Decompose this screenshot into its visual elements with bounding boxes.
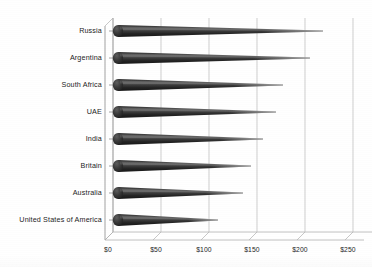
category-label-britain: Britain <box>81 161 102 170</box>
plot-frame <box>105 18 372 240</box>
bar-russia[interactable] <box>113 25 323 37</box>
xtick-label-50: $50 <box>150 246 162 253</box>
xtick-label-150: $150 <box>244 246 260 253</box>
category-label-argentina: Argentina <box>70 53 102 62</box>
floor-tick-200 <box>297 232 305 240</box>
floor-tick-100 <box>201 232 209 240</box>
category-label-australia: Australia <box>73 188 102 197</box>
category-labels: Russia Argentina South Africa UAE India … <box>19 26 102 224</box>
category-label-india: India <box>86 134 102 143</box>
floor-tick-0 <box>105 232 113 240</box>
value-axis-labels: $0 $50 $100 $150 $200 $250 <box>104 246 356 253</box>
xtick-label-200: $200 <box>292 246 308 253</box>
bar-south-africa[interactable] <box>113 79 283 91</box>
bar-series <box>113 25 323 226</box>
category-label-united-states-of-america: United States of America <box>19 215 102 224</box>
bar-argentina[interactable] <box>113 52 310 64</box>
bar-united-states-of-america[interactable] <box>113 214 218 226</box>
floor-tick-250 <box>345 232 353 240</box>
depth-connector-top <box>105 18 113 26</box>
floor-tick-50 <box>153 232 161 240</box>
bar-uae[interactable] <box>113 106 276 118</box>
xtick-label-100: $100 <box>196 246 212 253</box>
xtick-label-0: $0 <box>104 246 112 253</box>
category-label-russia: Russia <box>79 26 102 35</box>
gridlines <box>105 18 353 240</box>
category-label-uae: UAE <box>87 107 102 116</box>
bar-britain[interactable] <box>113 160 251 172</box>
floor-tick-150 <box>249 232 257 240</box>
bar-chart: Russia Argentina South Africa UAE India … <box>0 0 372 267</box>
category-label-south-africa: South Africa <box>61 80 102 89</box>
bar-india[interactable] <box>113 133 263 145</box>
xtick-label-250: $250 <box>340 246 356 253</box>
category-tickmarks <box>109 31 113 220</box>
chart-container: Russia Argentina South Africa UAE India … <box>0 0 372 267</box>
bar-australia[interactable] <box>113 187 243 199</box>
